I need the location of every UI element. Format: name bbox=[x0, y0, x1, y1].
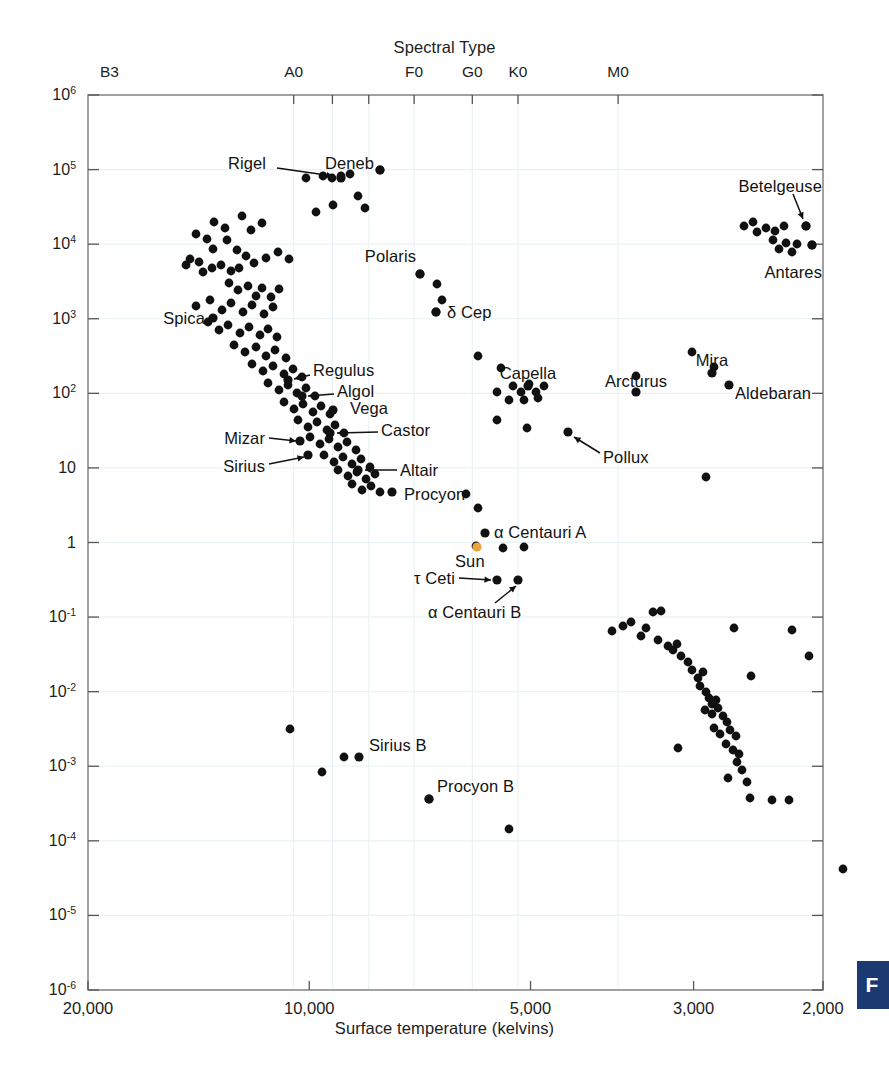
star-point bbox=[371, 470, 380, 479]
y-tick-label: 104 bbox=[52, 235, 76, 253]
star-point bbox=[269, 362, 278, 371]
x-tick-label: 10,000 bbox=[284, 999, 334, 1018]
y-tick-label: 103 bbox=[52, 310, 76, 328]
star-point bbox=[367, 482, 376, 491]
star-point bbox=[357, 455, 366, 464]
star-point bbox=[203, 235, 212, 244]
star-label: α Centauri B bbox=[428, 603, 521, 622]
y-tick-label: 10-4 bbox=[49, 832, 76, 850]
star-point bbox=[245, 323, 254, 332]
x-tick-label: 20,000 bbox=[63, 999, 113, 1018]
named-star-point bbox=[295, 436, 304, 445]
star-point bbox=[252, 343, 261, 352]
spectral-tick-label: F0 bbox=[405, 63, 423, 81]
star-point bbox=[242, 252, 251, 261]
star-point bbox=[259, 367, 268, 376]
star-point bbox=[493, 388, 502, 397]
star-point bbox=[331, 421, 340, 430]
star-point bbox=[793, 240, 802, 249]
star-label: Aldebaran bbox=[735, 384, 811, 403]
star-label: Deneb bbox=[325, 154, 374, 173]
star-point bbox=[657, 607, 666, 616]
star-point bbox=[210, 218, 219, 227]
star-point bbox=[239, 308, 248, 317]
star-point bbox=[260, 310, 269, 319]
star-point bbox=[684, 658, 693, 667]
star-point bbox=[330, 458, 339, 467]
star-point bbox=[280, 398, 289, 407]
star-point bbox=[236, 329, 245, 338]
star-point bbox=[334, 466, 343, 475]
star-point bbox=[233, 246, 242, 255]
star-point bbox=[195, 258, 204, 267]
named-star-point bbox=[297, 391, 306, 400]
named-star-point bbox=[724, 380, 733, 389]
star-point bbox=[286, 725, 295, 734]
named-star-point bbox=[480, 528, 489, 537]
named-star-point bbox=[431, 307, 440, 316]
star-point bbox=[780, 222, 789, 231]
star-point bbox=[354, 192, 363, 201]
star-label: Antares bbox=[764, 263, 822, 282]
named-star-point bbox=[492, 575, 501, 584]
y-tick-label: 10-3 bbox=[49, 757, 76, 775]
star-point bbox=[282, 354, 291, 363]
star-point bbox=[227, 267, 236, 276]
star-point bbox=[805, 652, 814, 661]
star-point bbox=[275, 386, 284, 395]
star-point bbox=[775, 245, 784, 254]
star-point bbox=[217, 261, 226, 270]
star-point bbox=[677, 652, 686, 661]
star-point bbox=[289, 365, 298, 374]
star-point bbox=[505, 825, 514, 834]
star-label: Spica bbox=[163, 309, 205, 328]
star-point bbox=[299, 400, 308, 409]
star-point bbox=[302, 174, 311, 183]
plot-canvas bbox=[0, 0, 889, 1079]
star-point bbox=[738, 766, 747, 775]
star-point bbox=[329, 201, 338, 210]
star-point bbox=[316, 440, 325, 449]
star-point bbox=[735, 750, 744, 759]
star-point bbox=[306, 433, 315, 442]
star-point bbox=[723, 718, 732, 727]
star-point bbox=[619, 622, 628, 631]
star-label: Procyon bbox=[404, 485, 465, 504]
star-point bbox=[732, 732, 741, 741]
named-star-point bbox=[375, 165, 384, 174]
spectral-tick-label: K0 bbox=[509, 63, 528, 81]
star-label: Castor bbox=[381, 421, 430, 440]
star-point bbox=[642, 624, 651, 633]
star-point bbox=[208, 264, 217, 273]
star-point bbox=[733, 758, 742, 767]
y-tick-label: 102 bbox=[52, 384, 76, 402]
star-point bbox=[340, 753, 349, 762]
star-point bbox=[294, 416, 303, 425]
star-point bbox=[182, 261, 191, 270]
star-point bbox=[275, 285, 284, 294]
star-point bbox=[785, 796, 794, 805]
named-star-point bbox=[523, 381, 532, 390]
star-label: Sirius bbox=[223, 457, 265, 476]
star-point bbox=[534, 394, 543, 403]
named-star-point bbox=[354, 752, 363, 761]
star-point bbox=[769, 236, 778, 245]
star-point bbox=[674, 744, 683, 753]
star-point bbox=[762, 224, 771, 233]
star-point bbox=[782, 239, 791, 248]
star-point bbox=[474, 352, 483, 361]
star-point bbox=[224, 321, 233, 330]
named-star-point bbox=[336, 173, 345, 182]
star-label: α Centauri A bbox=[494, 523, 586, 542]
x-axis-title: Surface temperature (kelvins) bbox=[0, 1019, 889, 1038]
y-tick-label: 10-5 bbox=[49, 906, 76, 924]
star-point bbox=[221, 224, 230, 233]
named-star-point bbox=[328, 405, 337, 414]
x-tick-label: 5,000 bbox=[510, 999, 551, 1018]
star-label: Pollux bbox=[603, 448, 649, 467]
star-point bbox=[716, 730, 725, 739]
star-point bbox=[608, 627, 617, 636]
star-label: Arcturus bbox=[605, 372, 667, 391]
star-point bbox=[250, 259, 259, 268]
star-point bbox=[358, 486, 367, 495]
